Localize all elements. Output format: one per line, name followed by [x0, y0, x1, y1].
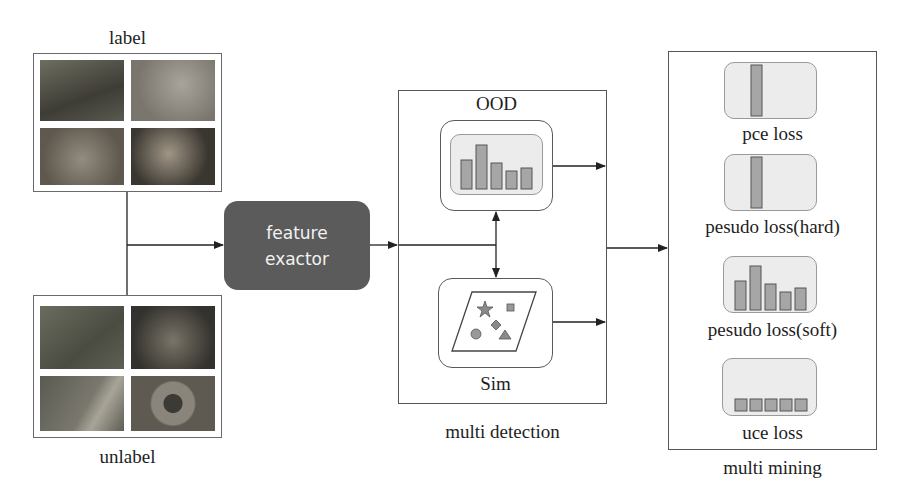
pseudo-loss-hard-label: pesudo loss(hard): [668, 216, 877, 238]
multi-detection-caption: multi detection: [398, 421, 607, 443]
thumbnail-dog: [131, 128, 215, 185]
uce-loss-panel: [722, 358, 817, 416]
single-bar-icon: [725, 155, 818, 212]
feature-extractor-line1: feature: [266, 220, 327, 246]
pce-loss-label: pce loss: [668, 123, 877, 145]
ood-histogram: [450, 134, 543, 195]
unlabel-caption: unlabel: [33, 446, 222, 468]
feature-extractor-block: feature exactor: [224, 201, 370, 290]
pseudo-loss-hard-panel: [724, 154, 817, 211]
thumbnail-deer: [40, 60, 124, 121]
thumbnail-cat: [40, 128, 124, 185]
feature-extractor-line2: exactor: [265, 246, 329, 272]
label-caption: label: [33, 27, 222, 49]
pce-loss-panel: [724, 62, 817, 119]
uce-loss-label: uce loss: [668, 422, 877, 444]
pseudo-loss-soft-label: pesudo loss(soft): [668, 319, 877, 341]
ood-panel: [440, 120, 553, 211]
thumbnail-round-animal: [131, 376, 215, 431]
bar-chart-icon: [724, 257, 818, 314]
square-icon: [507, 304, 514, 311]
labeled-image-grid: [33, 53, 222, 192]
thumbnail-butterfly: [40, 376, 124, 431]
ood-label: OOD: [440, 93, 553, 115]
thumbnail-bird: [40, 306, 124, 369]
sim-panel: [438, 278, 553, 368]
bar-chart-icon: [451, 135, 544, 196]
embedding-space-icon: [439, 279, 552, 367]
unlabeled-image-grid: [33, 295, 222, 438]
pseudo-loss-soft-panel: [723, 256, 817, 313]
thumbnail-blurred-animal: [131, 60, 215, 121]
uniform-bars-icon: [723, 359, 818, 417]
sim-label: Sim: [438, 373, 553, 395]
circle-icon: [471, 329, 481, 339]
single-bar-icon: [725, 63, 818, 120]
thumbnail-leopard: [131, 306, 215, 369]
multi-mining-caption: multi mining: [668, 457, 877, 479]
